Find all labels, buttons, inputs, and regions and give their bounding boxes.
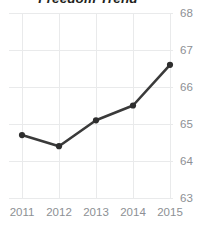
- plot-area: [9, 13, 173, 198]
- y-axis-tick-66: 66: [180, 81, 204, 93]
- series-markers: [19, 62, 173, 150]
- data-point-2015: [167, 62, 173, 68]
- line-chart: Freedom Trend 68 67 66 65 64 63 2011 201…: [0, 0, 206, 230]
- gridline-horizontal-63: [9, 198, 173, 199]
- x-axis-tick-2014: 2014: [113, 206, 153, 218]
- y-axis-tick-64: 64: [180, 155, 204, 167]
- data-point-2013: [93, 117, 99, 123]
- y-axis-tick-68: 68: [180, 7, 204, 19]
- data-point-2012: [56, 143, 62, 149]
- data-point-2014: [130, 102, 136, 108]
- data-point-2011: [19, 132, 25, 138]
- x-axis-tick-2012: 2012: [39, 206, 79, 218]
- x-axis-tick-2015: 2015: [150, 206, 190, 218]
- y-axis-tick-65: 65: [180, 118, 204, 130]
- y-axis-tick-63: 63: [180, 192, 204, 204]
- chart-title: Freedom Trend: [0, 0, 176, 6]
- data-series-freedom-score: [9, 13, 173, 198]
- x-axis-tick-2013: 2013: [76, 206, 116, 218]
- series-line: [22, 65, 170, 146]
- y-axis-tick-67: 67: [180, 44, 204, 56]
- x-axis-tick-2011: 2011: [2, 206, 42, 218]
